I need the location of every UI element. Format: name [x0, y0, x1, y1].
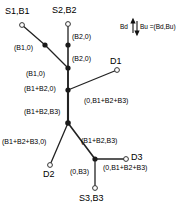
dest-node-d3 [124, 157, 129, 162]
relay-node [42, 42, 47, 47]
source-node-s3 [93, 186, 98, 191]
edge-label-d1-r4: (0,B1+B2+B3) [84, 97, 128, 104]
edge-label-r2-r3: (B2,0) [72, 55, 91, 62]
edge-label-s1-r1: (B1,0) [14, 44, 33, 51]
relay-node [65, 65, 70, 70]
dest-node-d1 [115, 68, 120, 73]
node-label-d1: D1 [110, 57, 122, 66]
node-label-s3: S3,B3 [79, 194, 104, 203]
legend-left-text: Bd [120, 24, 128, 31]
source-node-s1 [20, 23, 25, 28]
graph-canvas [0, 0, 188, 210]
edge-label-r5-d2: (B1+B2+B3,0) [2, 138, 46, 145]
edge-d1-r4 [68, 70, 117, 90]
edge-r5-d2 [50, 123, 68, 165]
node-label-d3: D3 [131, 153, 143, 162]
dest-node-d2 [48, 163, 53, 168]
up-down-arrow-icon [131, 19, 139, 35]
edge-label-s2-r2: (B2,0) [72, 33, 91, 40]
edge-s1-r1 [22, 25, 45, 45]
legend-right-text: Bu =(Bd,Bu) [140, 24, 176, 31]
edge-label-r5-r6: (B1+B2,B3) [81, 137, 117, 144]
node-label-s2: S2,B2 [52, 6, 77, 15]
node-label-d2: D2 [43, 170, 55, 179]
edge-r1-r3 [45, 45, 68, 68]
source-node-s2 [66, 22, 71, 27]
edge-label-r3-r4: (B1+B2,0) [24, 85, 56, 92]
node-label-s1: S1,B1 [5, 7, 30, 16]
relay-node [65, 120, 71, 126]
network-tree-figure: S1,B1 S2,B2 S3,B3 D1 D2 D3 (B1,0) (B1,0)… [0, 0, 188, 210]
edge-label-r6-d3: (0,B1+B2+B3) [103, 164, 147, 171]
edge-label-r4-r5: (B1+B2,B3) [24, 108, 60, 115]
relay-node [92, 156, 97, 161]
relay-node [65, 42, 70, 47]
edge-label-r6-s3: (0,B3) [70, 168, 89, 175]
edge-label-r1-r3: (B1,0) [26, 70, 45, 77]
relay-node [65, 87, 70, 92]
